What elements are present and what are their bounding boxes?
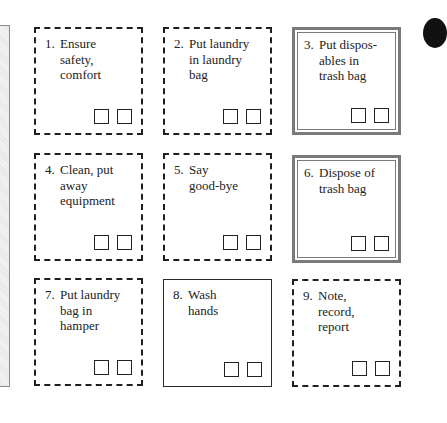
checkbox[interactable] (117, 360, 132, 375)
checkbox-group (94, 109, 132, 124)
step-label: Ensure safety, comfort (60, 36, 101, 83)
step-label: Put dispos- ables in trash bag (319, 37, 377, 84)
checkbox-group (223, 109, 261, 124)
step-number: 7. (45, 287, 60, 334)
step-label: Note, record, report (318, 288, 354, 335)
checkbox[interactable] (246, 235, 261, 250)
checkbox-group (224, 362, 262, 377)
checkbox[interactable] (224, 362, 239, 377)
checkbox[interactable] (94, 235, 109, 250)
edge-circle-icon (423, 18, 447, 48)
step-box-3: 3. Put dispos- ables in trash bag (292, 27, 401, 135)
step-box-1: 1. Ensure safety, comfort (34, 27, 143, 135)
step-label: Put laundry bag in hamper (60, 287, 120, 334)
checkbox[interactable] (352, 361, 367, 376)
checkbox[interactable] (117, 109, 132, 124)
checkbox-group (94, 360, 132, 375)
step-box-9: 9. Note, record, report (292, 279, 401, 387)
step-label: Dispose of trash bag (319, 165, 375, 196)
side-panel (0, 25, 10, 387)
checkbox-group (94, 235, 132, 250)
step-number: 2. (174, 36, 189, 83)
checkbox[interactable] (247, 362, 262, 377)
step-box-7: 7. Put laundry bag in hamper (34, 278, 143, 386)
checkbox-group (352, 361, 390, 376)
checkbox[interactable] (374, 108, 389, 123)
checkbox[interactable] (223, 235, 238, 250)
step-label: Say good-bye (189, 162, 238, 193)
checkbox[interactable] (117, 235, 132, 250)
step-number: 8. (173, 287, 188, 318)
checkbox-group (351, 236, 389, 251)
checkbox-group (223, 235, 261, 250)
step-box-6: 6. Dispose of trash bag (292, 155, 401, 263)
step-box-2: 2. Put laundry in laundry bag (163, 27, 272, 135)
checkbox[interactable] (375, 361, 390, 376)
step-label: Wash hands (188, 287, 218, 318)
checkbox-group (351, 108, 389, 123)
checkbox[interactable] (374, 236, 389, 251)
checkbox[interactable] (94, 360, 109, 375)
step-box-8: 8. Wash hands (163, 279, 272, 387)
checkbox[interactable] (351, 108, 366, 123)
step-box-5: 5. Say good-bye (163, 153, 272, 261)
step-box-4: 4. Clean, put away equipment (34, 153, 143, 261)
step-number: 4. (45, 162, 60, 209)
step-number: 6. (304, 165, 319, 196)
step-number: 5. (174, 162, 189, 193)
checkbox[interactable] (223, 109, 238, 124)
step-label: Clean, put away equipment (60, 162, 115, 209)
step-label: Put laundry in laundry bag (189, 36, 249, 83)
step-number: 9. (303, 288, 318, 335)
step-number: 1. (45, 36, 60, 83)
checkbox[interactable] (246, 109, 261, 124)
step-number: 3. (304, 37, 319, 84)
checkbox[interactable] (94, 109, 109, 124)
checkbox[interactable] (351, 236, 366, 251)
